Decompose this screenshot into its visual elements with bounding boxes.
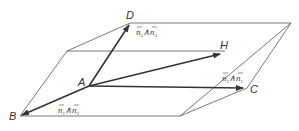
edge-diagonal-through-h [180, 23, 291, 116]
edge-c-to-bottom [180, 88, 247, 116]
point-label-c: C [250, 83, 258, 95]
point-label-b: B [9, 110, 16, 122]
svg-text:n1∧n1: n1∧n1 [222, 73, 244, 84]
point-label-h: H [220, 39, 228, 51]
vector-ad [89, 25, 129, 86]
vector-label-ab: n1∧n2 [58, 105, 80, 116]
geometry-figure: A B C D H n2∧n3 n1∧n1 n1∧n2 [0, 0, 299, 131]
vectors [22, 25, 243, 115]
svg-text:n2∧n3: n2∧n3 [136, 27, 158, 38]
vector-ah [89, 54, 220, 86]
vector-ac [89, 86, 243, 88]
edge-right-to-c [247, 23, 291, 88]
point-label-d: D [126, 9, 134, 21]
svg-text:n1∧n2: n1∧n2 [58, 105, 80, 116]
point-label-a: A [77, 76, 85, 88]
vector-label-ad: n2∧n3 [136, 27, 158, 38]
vector-label-ac: n1∧n1 [222, 73, 244, 84]
